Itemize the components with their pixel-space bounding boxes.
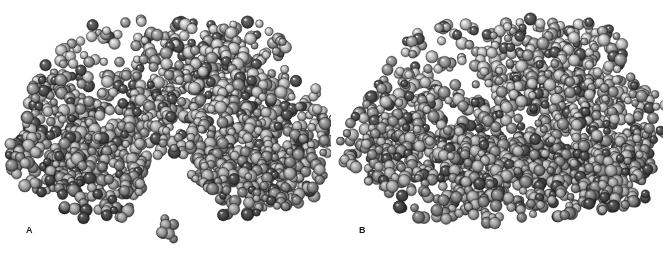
panel-a-label: A xyxy=(26,226,33,235)
panel-b-molecule-render xyxy=(331,0,663,260)
panel-b-label: B xyxy=(359,226,366,235)
panel-a-molecule-render xyxy=(0,0,332,260)
figure-container: A B xyxy=(0,0,663,260)
